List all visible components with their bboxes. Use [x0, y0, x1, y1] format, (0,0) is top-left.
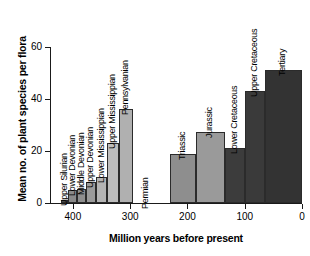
bar-category-label: Upper Devonian: [86, 127, 95, 188]
x-tick-mark: [302, 204, 303, 209]
x-tick-label: 200: [167, 211, 207, 222]
x-tick-mark: [73, 204, 74, 209]
bar-category-label: Jurassic: [205, 107, 214, 138]
x-tick-mark: [187, 204, 188, 209]
bar: [265, 70, 302, 203]
bar-category-label: Lower Mississippian: [97, 108, 106, 183]
bar: [119, 109, 133, 203]
bar: [170, 154, 196, 203]
bar-category-label: Lower Cretaceous: [230, 86, 239, 154]
bar: [245, 91, 265, 203]
y-tick-label: 40: [16, 94, 42, 104]
y-tick-mark: [45, 203, 50, 204]
plot-area: Upper SilurianLower DevonianMiddle Devon…: [50, 47, 302, 203]
y-tick-label: 60: [16, 42, 42, 52]
x-tick-mark: [130, 204, 131, 209]
x-axis-title: Million years before present: [50, 232, 302, 244]
x-tick-label: 400: [53, 211, 93, 222]
x-axis-spine: [50, 203, 302, 204]
bar-category-label: Upper Cretaceous: [250, 29, 259, 97]
bar-category-label: Triassic: [178, 131, 187, 159]
bar-category-label: Tertiary: [278, 49, 287, 76]
chart-figure: Mean no. of plant species per flora Mill…: [0, 0, 310, 256]
x-tick-mark: [245, 204, 246, 209]
bar-category-label: Upper Mississippian: [108, 74, 117, 149]
x-tick-label: 300: [110, 211, 150, 222]
x-tick-label: 100: [225, 211, 265, 222]
bar-category-label: Pennsylvanian: [121, 61, 130, 116]
bar: [225, 148, 245, 203]
bar-category-label: Permian: [141, 178, 150, 209]
x-tick-label: 0: [282, 211, 310, 222]
y-tick-label: 20: [16, 146, 42, 156]
bar: [107, 143, 118, 203]
y-axis-title: Mean no. of plant species per flora: [16, 34, 28, 204]
bar: [196, 132, 225, 204]
y-tick-label: 0: [16, 198, 42, 208]
